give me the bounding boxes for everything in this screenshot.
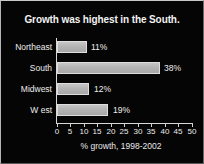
x-axis-title: % growth, 1998-2002	[41, 141, 201, 151]
x-tick-label: 50	[184, 127, 200, 136]
bar-value-label: 11%	[91, 42, 107, 52]
x-axis-tick-labels: 0 5 10 15 20 25 30 35 40 45 50	[1, 127, 203, 138]
chart-screenshot: Growth was highest in the South. Northea…	[0, 0, 204, 164]
category-label: Northeast	[1, 42, 52, 52]
bar-south	[57, 62, 160, 74]
category-label: South	[1, 63, 52, 73]
bar-value-label: 38%	[164, 63, 181, 73]
chart-frame: Growth was highest in the South. Northea…	[1, 1, 203, 163]
bar-row: Northeast 11%	[1, 39, 203, 60]
bar-northeast	[57, 41, 87, 53]
bar-value-label: 12%	[94, 84, 111, 94]
bar-value-label: 19%	[113, 105, 130, 115]
category-label: W est	[1, 105, 52, 115]
category-label: Midwest	[1, 84, 52, 94]
bar-row: South 38%	[1, 60, 203, 81]
bar-row: W est 19%	[1, 102, 203, 123]
bar-row: Midwest 12%	[1, 81, 203, 102]
plot-area: Northeast 11% South 38% Midwest 12% W es…	[1, 1, 203, 163]
bar-midwest	[57, 83, 89, 95]
bar-west	[57, 104, 108, 116]
